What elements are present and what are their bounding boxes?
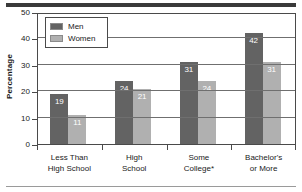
y-tick-label-30: 30	[8, 62, 30, 70]
x-tick-mark-0	[37, 145, 38, 150]
bar-men-3: 42	[245, 33, 263, 144]
bar-men-2: 31	[180, 62, 198, 144]
x-axis-label-line: or More	[231, 163, 296, 174]
gridline-20	[38, 90, 295, 91]
y-tick-label-40: 40	[8, 35, 30, 43]
x-tick-mark-2	[167, 145, 168, 150]
bar-value-label: 24	[198, 84, 216, 93]
chart-legend: MenWomen	[45, 17, 108, 48]
y-tick-label-20: 20	[8, 88, 30, 96]
legend-label: Men	[68, 22, 84, 31]
gridline-30	[38, 64, 295, 65]
bar-value-label: 31	[263, 65, 281, 74]
x-axis-label-line: Some	[167, 152, 232, 163]
x-axis-label-2: SomeCollege*	[167, 152, 232, 174]
x-axis-label-3: Bachelor'sor More	[231, 152, 296, 174]
legend-label: Women	[68, 34, 95, 43]
bar-value-label: 31	[180, 65, 198, 74]
bar-value-label: 19	[50, 97, 68, 106]
x-axis-label-0: Less ThanHigh School	[37, 152, 102, 174]
bar-value-label: 11	[68, 118, 86, 127]
x-axis-label-line: College*	[167, 163, 232, 174]
chart-figure: Percentage 01020304050 1924314211212431 …	[0, 0, 302, 192]
legend-swatch-men	[50, 23, 63, 30]
x-tick-mark-3	[231, 145, 232, 150]
bar-value-label: 21	[133, 92, 151, 101]
x-axis-label-line: High School	[37, 163, 102, 174]
x-tick-mark-1	[102, 145, 103, 150]
y-tick-label-10: 10	[8, 115, 30, 123]
x-axis-label-line: Bachelor's	[231, 152, 296, 163]
legend-item-men[interactable]: Men	[50, 21, 103, 32]
gridline-10	[38, 117, 295, 118]
bar-men-0: 19	[50, 94, 68, 144]
y-axis-ticks: 01020304050	[0, 0, 37, 192]
bar-women-3: 31	[263, 62, 281, 144]
bottom-rule	[6, 186, 296, 187]
y-tick-label-0: 0	[8, 141, 30, 149]
x-tick-mark-4	[295, 145, 296, 150]
x-axis-label-line: High	[102, 152, 167, 163]
x-axis-label-line: School	[102, 163, 167, 174]
legend-item-women[interactable]: Women	[50, 33, 103, 44]
bar-value-label: 24	[115, 84, 133, 93]
top-rule	[6, 3, 296, 7]
legend-swatch-women	[50, 35, 63, 42]
x-axis-label-line: Less Than	[37, 152, 102, 163]
bar-women-0: 11	[68, 115, 86, 144]
y-tick-label-50: 50	[8, 9, 30, 17]
x-axis-label-1: HighSchool	[102, 152, 167, 174]
